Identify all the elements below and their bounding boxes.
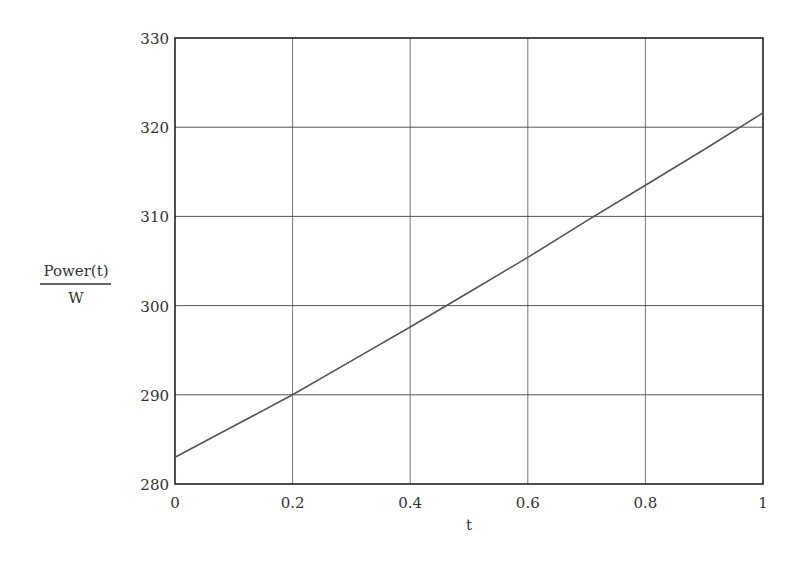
y-tick-label: 310: [140, 208, 169, 226]
x-tick-label: 0.8: [633, 494, 657, 512]
x-axis-ticks: 00.20.40.60.81: [170, 494, 768, 512]
power-chart: 280290300310320330 00.20.40.60.81 t Powe…: [0, 0, 803, 565]
x-axis-label: t: [466, 516, 472, 534]
y-axis-ticks: 280290300310320330: [140, 30, 169, 494]
grid-lines: [175, 38, 763, 484]
x-tick-label: 0: [170, 494, 180, 512]
y-axis-label-numerator: Power(t): [43, 262, 108, 280]
x-tick-label: 1: [758, 494, 768, 512]
x-tick-label: 0.6: [516, 494, 540, 512]
y-tick-label: 300: [140, 298, 169, 316]
y-tick-label: 280: [140, 476, 169, 494]
power-line: [175, 113, 763, 457]
y-tick-label: 290: [140, 387, 169, 405]
plot-frame: [175, 38, 763, 484]
x-tick-label: 0.2: [281, 494, 305, 512]
y-tick-label: 320: [140, 119, 169, 137]
x-tick-label: 0.4: [398, 494, 422, 512]
y-axis-label-denominator: W: [68, 289, 84, 307]
y-tick-label: 330: [140, 30, 169, 48]
